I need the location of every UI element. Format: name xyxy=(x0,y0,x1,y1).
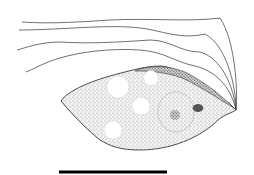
vacuole-2 xyxy=(144,71,159,86)
vacuole-4 xyxy=(104,121,122,139)
protist-illustration xyxy=(0,0,254,175)
karyosome xyxy=(170,110,180,120)
vacuole-1 xyxy=(107,76,129,98)
stigma xyxy=(193,105,203,112)
vacuole-3 xyxy=(132,97,150,115)
